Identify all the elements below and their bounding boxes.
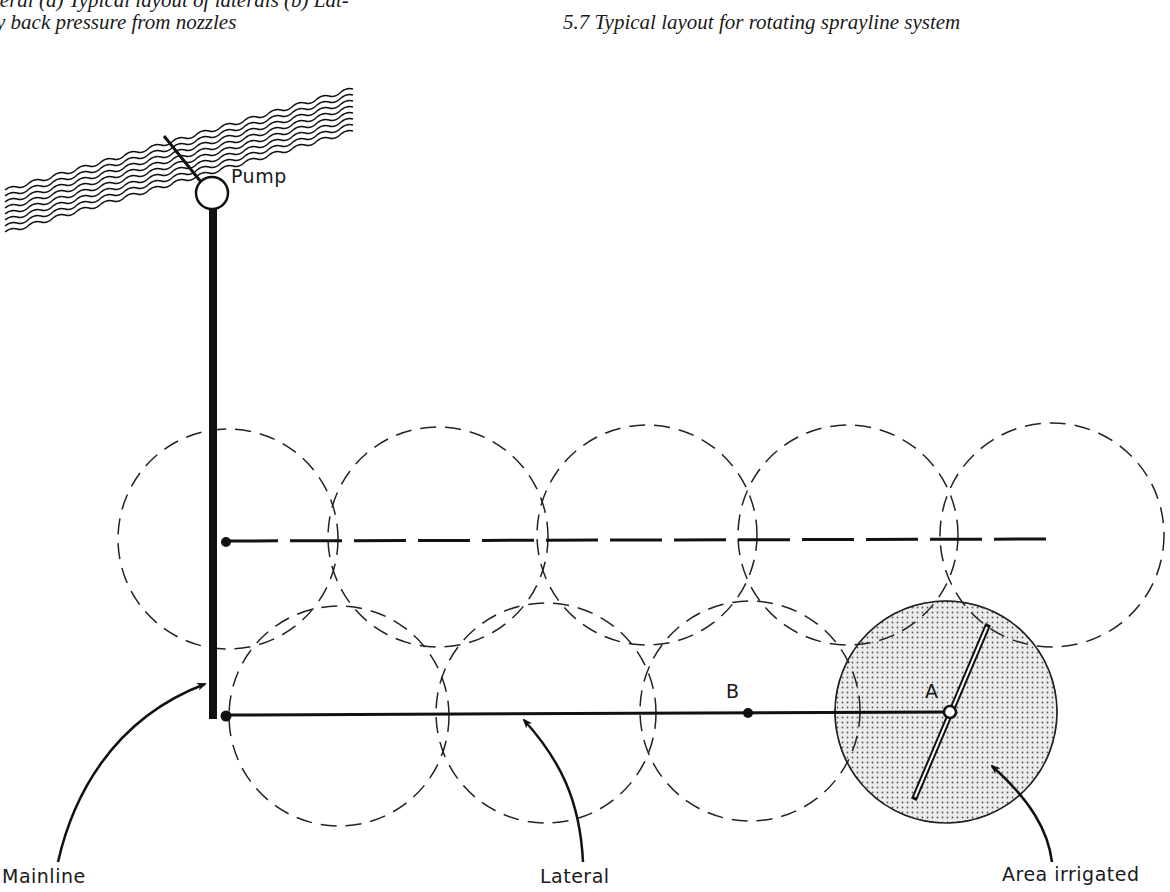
pump-icon <box>196 177 228 209</box>
mainline-leader-arrow <box>58 684 205 862</box>
point-b-dot <box>743 708 753 718</box>
upper-lateral-hydrant-dot <box>221 537 231 547</box>
area-irrigated-label: Area irrigated <box>1002 865 1140 884</box>
pump-label: Pump <box>231 167 287 186</box>
point-a-swivel-icon <box>944 706 956 718</box>
point-a-label: A <box>925 682 939 701</box>
lower-lateral-hydrant-dot <box>221 711 232 722</box>
point-b-label: B <box>726 682 740 701</box>
upper-lateral-dashed <box>226 539 1050 541</box>
sprayline-layout-diagram <box>0 0 1170 892</box>
lateral-label: Lateral <box>540 867 610 886</box>
lateral-leader-arrow <box>524 720 583 862</box>
mainline-label: Mainline <box>2 867 86 886</box>
river-water-source-icon <box>5 88 353 232</box>
upper-lateral-wetted-circles <box>118 423 1164 649</box>
